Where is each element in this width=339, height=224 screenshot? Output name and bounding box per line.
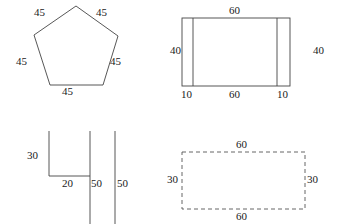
figures-canvas: 45 45 45 45 45 60 40 40 10 60 10 30 20 5… [0, 0, 339, 224]
rectangle-top-label: 60 [229, 5, 240, 16]
rectangle-bottom-label-middle: 60 [229, 89, 240, 100]
dashed-top-label: 60 [236, 139, 247, 150]
figure-rectangle-solid: 60 40 40 10 60 10 [170, 0, 339, 112]
pentagon-side-label-5: 45 [62, 86, 73, 97]
rectangle-solid-outline [182, 18, 290, 86]
partial-bottom-left-label: 20 [62, 178, 73, 189]
dashed-bottom-label: 60 [236, 211, 247, 222]
pentagon-side-label-1: 45 [34, 7, 45, 18]
dashed-right-label: 30 [307, 174, 318, 185]
rectangle-dashed-shape-svg [170, 112, 339, 224]
figure-rectangle-dashed: 60 30 30 60 [170, 112, 339, 224]
pentagon-side-label-3: 45 [16, 56, 27, 67]
rectangle-dashed-outline [182, 152, 305, 209]
rectangle-right-label: 40 [313, 45, 324, 56]
pentagon-side-label-2: 45 [96, 7, 107, 18]
figure-pentagon: 45 45 45 45 45 [0, 0, 170, 112]
partial-left-vertical-label: 30 [27, 150, 38, 161]
partial-lines-shape-svg [0, 112, 170, 224]
rectangle-solid-shape-svg [170, 0, 339, 112]
rectangle-bottom-label-right: 10 [277, 89, 288, 100]
partial-right-label: 50 [117, 178, 128, 189]
rectangle-bottom-label-left: 10 [181, 89, 192, 100]
rectangle-left-label: 40 [170, 45, 181, 56]
figure-partial-lines: 30 20 50 50 [0, 112, 170, 224]
pentagon-side-label-4: 45 [110, 56, 121, 67]
partial-step-polyline [49, 131, 90, 176]
dashed-left-label: 30 [167, 174, 178, 185]
partial-middle-label: 50 [91, 178, 102, 189]
